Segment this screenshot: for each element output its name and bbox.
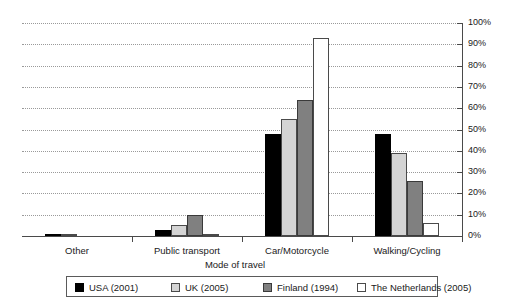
y-axis-tick (457, 151, 463, 152)
x-axis-tick (352, 236, 353, 242)
gridline (22, 151, 462, 152)
legend-item[interactable]: USA (2001) (75, 281, 138, 293)
x-axis-category-label: Other (22, 245, 132, 256)
x-axis-tick (242, 236, 243, 242)
legend-item[interactable]: The Netherlands (2005) (357, 281, 471, 293)
legend-item[interactable]: UK (2005) (171, 281, 228, 293)
legend-swatch-icon (263, 283, 272, 292)
legend-label: USA (2001) (89, 282, 138, 293)
gridline (22, 108, 462, 109)
legend-label: UK (2005) (185, 282, 228, 293)
y-axis-tick-label: 30% (468, 167, 486, 176)
bar (171, 225, 187, 236)
bar-chart: 0%10%20%30%40%50%60%70%80%90%100% OtherP… (0, 0, 506, 305)
y-axis-tick-label: 100% (468, 18, 491, 27)
bar (423, 223, 439, 236)
gridline (22, 130, 462, 131)
bar (375, 134, 391, 236)
x-axis-tick (132, 236, 133, 242)
legend-item[interactable]: Finland (1994) (263, 281, 338, 293)
x-axis-tick (462, 236, 463, 242)
bar (391, 153, 407, 236)
bar (265, 134, 281, 236)
y-axis-tick (457, 87, 463, 88)
legend-label: Finland (1994) (277, 282, 338, 293)
y-axis-tick-label: 40% (468, 146, 486, 155)
gridline (22, 44, 462, 45)
y-axis-tick (457, 172, 463, 173)
x-axis-category-label: Walking/Cycling (352, 245, 462, 256)
y-axis-tick-label: 60% (468, 103, 486, 112)
x-axis-category-label: Car/Motorcycle (242, 245, 352, 256)
x-axis-category-label: Public transport (132, 245, 242, 256)
y-axis-tick (457, 66, 463, 67)
y-axis-tick-label: 20% (468, 188, 486, 197)
y-axis-tick-label: 10% (468, 210, 486, 219)
legend: USA (2001)UK (2005)Finland (1994)The Net… (66, 276, 438, 297)
bar (281, 119, 297, 236)
legend-swatch-icon (171, 283, 180, 292)
y-axis-tick-label: 80% (468, 61, 486, 70)
y-axis-tick (457, 130, 463, 131)
plot-area (22, 23, 462, 236)
gridline (22, 66, 462, 67)
y-axis-tick (457, 108, 463, 109)
y-axis-tick-label: 90% (468, 39, 486, 48)
bar (313, 38, 329, 236)
bar (407, 181, 423, 236)
x-axis-title: Mode of travel (0, 259, 470, 270)
gridline (22, 87, 462, 88)
y-axis-tick (457, 193, 463, 194)
legend-label: The Netherlands (2005) (371, 282, 471, 293)
y-axis-tick (457, 215, 463, 216)
bar (297, 100, 313, 236)
legend-swatch-icon (75, 283, 84, 292)
gridline (22, 23, 462, 24)
y-axis-tick (457, 44, 463, 45)
bar (187, 215, 203, 236)
y-axis-tick (457, 23, 463, 24)
y-axis-tick-label: 0% (468, 231, 481, 240)
y-axis-tick-label: 70% (468, 82, 486, 91)
legend-swatch-icon (357, 283, 366, 292)
y-axis-tick-label: 50% (468, 125, 486, 134)
